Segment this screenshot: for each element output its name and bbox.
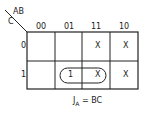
row-header: 1 (21, 71, 26, 79)
kmap-cell: 1 (68, 71, 73, 79)
equation: JA = BC (73, 97, 102, 108)
row-header: 0 (21, 42, 26, 50)
kmap-cell: X (123, 42, 128, 50)
kmap-cell: X (95, 42, 100, 50)
col-header: 10 (119, 23, 129, 31)
col-header: 00 (36, 23, 46, 31)
col-var-label: AB (13, 8, 24, 16)
kmap-cell: X (95, 71, 100, 79)
kmap-cell: X (123, 71, 128, 79)
col-header: 01 (64, 23, 74, 31)
col-header: 11 (91, 23, 101, 31)
row-var-label: C (8, 18, 14, 26)
